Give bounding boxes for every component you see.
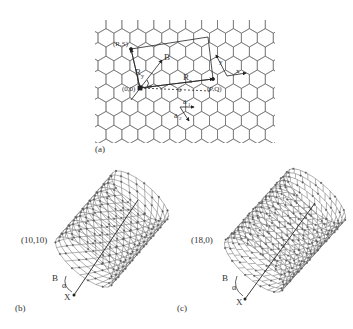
tube-atom — [249, 213, 251, 215]
tube-atom — [300, 175, 302, 177]
tube-atom — [100, 211, 102, 213]
label-x-c: X — [236, 297, 243, 307]
tube-atom — [328, 230, 330, 232]
hexagon-cell — [82, 111, 98, 129]
tube-bond — [305, 190, 313, 196]
tube-atom — [94, 271, 96, 273]
tube-atom — [277, 203, 279, 205]
tube-bond — [236, 238, 239, 244]
tube-bond — [64, 239, 67, 245]
label-pq: (P,Q) — [207, 85, 222, 93]
hexagon-cell — [257, 84, 273, 102]
tube-bond — [269, 283, 276, 285]
tube-bond — [302, 201, 310, 208]
tube-bond — [331, 210, 332, 217]
hexagon-cell — [106, 15, 122, 33]
tube-bond — [291, 212, 298, 219]
tube-bond — [253, 228, 259, 229]
tube-atom — [115, 170, 117, 172]
tube-atom — [281, 244, 283, 246]
tube-atom — [261, 207, 263, 209]
tube-atom — [303, 238, 305, 240]
tube-atom — [101, 204, 103, 206]
tube-atom — [259, 229, 261, 231]
tube-bond — [316, 185, 324, 191]
tube-atom — [123, 230, 125, 232]
tube-bond — [330, 199, 336, 206]
tube-bond — [95, 270, 103, 272]
tube-atom — [116, 270, 118, 272]
tube-bond — [110, 260, 117, 262]
tube-atom — [78, 259, 80, 261]
tube-atom — [113, 189, 115, 191]
tube-bond — [271, 249, 278, 250]
hexagon-cell — [210, 111, 226, 129]
tube-atom — [272, 191, 274, 193]
tube-atom — [78, 230, 80, 232]
tube-bond — [123, 201, 131, 207]
tube-bond — [67, 246, 72, 253]
tube-bond — [80, 274, 88, 275]
tube-atom — [108, 196, 110, 198]
tube-bond — [252, 253, 259, 260]
tube-axis-c — [245, 203, 315, 299]
tube-bond — [275, 213, 283, 218]
tube-bond — [310, 188, 318, 194]
tube-atom — [100, 242, 102, 244]
hexagon-cell — [170, 15, 186, 33]
hexagon-cell — [130, 29, 146, 47]
tube-atom — [293, 260, 295, 262]
tube-atom — [85, 222, 87, 224]
tube-bond — [72, 268, 80, 275]
tube-atom — [87, 241, 89, 243]
tube-atom — [144, 220, 146, 222]
tube-atom — [241, 227, 243, 229]
tube-bond — [274, 288, 280, 292]
tube-atom — [123, 245, 125, 247]
tube-atom — [93, 199, 95, 201]
tube-bond — [157, 212, 160, 218]
tube-bond — [313, 177, 321, 183]
tube-bond — [163, 204, 165, 211]
tube-atom — [285, 187, 287, 189]
hexagon-cell — [265, 42, 281, 60]
tube-bond — [254, 225, 261, 229]
tube-atom — [309, 214, 311, 216]
tube-atom — [162, 211, 164, 213]
tube-atom — [99, 206, 101, 208]
tube-atom — [58, 240, 60, 242]
tube-atom — [260, 286, 262, 288]
hexagon-cell — [194, 139, 210, 157]
hexagon-cell — [257, 1, 273, 19]
tube-bond — [273, 244, 280, 245]
tube-atom — [65, 232, 67, 234]
tube-atom — [238, 243, 240, 245]
tube-bond — [128, 174, 136, 178]
tube-atom — [308, 257, 310, 259]
tube-bond — [136, 178, 144, 184]
tube-bond — [72, 261, 79, 268]
tube-atom — [108, 255, 110, 257]
hexagon-cell — [194, 111, 210, 129]
tube-atom — [93, 220, 95, 222]
tube-bond — [60, 254, 65, 261]
tube-bond — [131, 235, 138, 237]
tube-atom — [224, 247, 226, 249]
tube-bond — [274, 239, 282, 246]
tube-atom — [318, 237, 320, 239]
tube-bond — [331, 200, 332, 207]
tube-bond — [121, 203, 128, 210]
tube-atom — [294, 251, 296, 253]
tube-bond — [283, 192, 289, 193]
tube-atom — [269, 285, 271, 287]
tube-bond — [266, 201, 271, 202]
tube-bond — [138, 232, 145, 235]
tube-atom — [87, 248, 89, 250]
tube-atom — [59, 253, 61, 255]
tube-atom — [101, 263, 103, 265]
hexagon-cell — [178, 1, 194, 19]
tube-atom — [257, 217, 259, 219]
tube-bond — [130, 193, 138, 199]
tube-bond — [116, 216, 117, 223]
tube-bond — [308, 180, 316, 186]
